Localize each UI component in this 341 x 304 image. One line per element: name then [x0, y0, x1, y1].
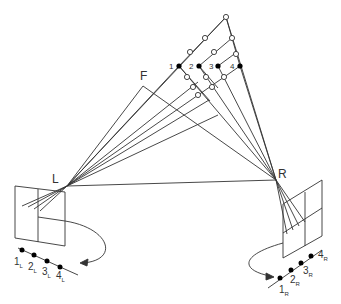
baseline	[67, 180, 276, 186]
label-R: R	[278, 167, 287, 181]
left-curved-arrow	[65, 221, 106, 263]
svg-text:1R: 1R	[279, 284, 290, 297]
right-curved-arrow	[249, 243, 283, 276]
svg-text:1L: 1L	[14, 256, 24, 269]
svg-text:4L: 4L	[56, 270, 66, 283]
svg-text:2L: 2L	[28, 261, 38, 274]
point-label-3: 3	[209, 62, 214, 71]
svg-text:2R: 2R	[290, 274, 301, 287]
point-label-4: 4	[230, 62, 235, 71]
label-L: L	[52, 172, 59, 186]
svg-text:3L: 3L	[42, 266, 52, 279]
stereo-diagram: F L R 1 2 3 4 1L 2L 3L 4L 1R 2R 3R 4R	[0, 0, 341, 304]
left-arrowhead	[80, 259, 88, 266]
diagram-canvas: F L R 1 2 3 4 1L 2L 3L 4L 1R 2R 3R 4R	[0, 0, 341, 304]
right-arrowhead	[266, 273, 274, 280]
svg-text:3R: 3R	[303, 265, 314, 278]
lattice-points	[184, 14, 238, 97]
svg-text:4R: 4R	[318, 249, 329, 262]
point-label-2: 2	[189, 62, 194, 71]
point-label-1: 1	[169, 62, 174, 71]
rays	[22, 17, 305, 234]
label-F: F	[140, 69, 147, 83]
left-point-labels: 1L 2L 3L 4L	[14, 256, 66, 283]
